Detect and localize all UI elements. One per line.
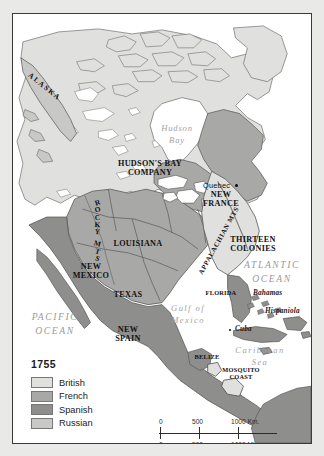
scale-mi-mark-0 — [160, 433, 161, 439]
cuba-marker-dot — [229, 329, 231, 331]
map-scale-bar: 0 500 1000 Km. 0 500 1000 Mi. — [159, 418, 295, 444]
legend-row-british: British — [31, 377, 93, 388]
scale-mi-tick-2: 1000 Mi. — [231, 441, 256, 444]
legend-label-british: British — [59, 378, 85, 388]
legend-year: 1755 — [31, 358, 93, 370]
legend-label-spanish: Spanish — [59, 405, 93, 415]
legend-swatch-british — [31, 377, 53, 388]
scale-mi-tick-0: 0 — [159, 441, 163, 444]
map-page: ALASKA HUDSON'S BAY COMPANY Hudson Bay Q… — [0, 0, 324, 456]
legend-row-french: French — [31, 391, 93, 402]
legend-swatch-spanish — [31, 404, 53, 415]
quebec-city-dot — [235, 184, 238, 187]
legend-swatch-russian — [31, 418, 53, 429]
legend-row-russian: Russian — [31, 418, 93, 429]
legend-label-french: French — [59, 391, 88, 401]
scale-km-tick-2: 1000 Km. — [231, 418, 259, 425]
scale-mi-tick-1: 500 — [192, 441, 203, 444]
scale-km-tick-1: 500 — [192, 418, 203, 425]
scale-km-tick-0: 0 — [159, 418, 163, 425]
legend-label-russian: Russian — [59, 418, 93, 428]
scale-mi-mark-1 — [199, 433, 200, 439]
legend-swatch-french — [31, 391, 53, 402]
legend-row-spanish: Spanish — [31, 404, 93, 415]
map-frame: ALASKA HUDSON'S BAY COMPANY Hudson Bay Q… — [12, 13, 312, 444]
scale-axis-line — [159, 433, 277, 434]
scale-mi-mark-2 — [238, 433, 239, 439]
map-legend: 1755 British French Spanish Russian — [31, 358, 93, 431]
